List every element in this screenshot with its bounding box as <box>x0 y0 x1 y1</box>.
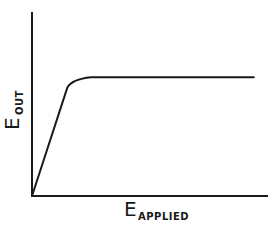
data-curve <box>32 77 254 196</box>
y-label-main: E <box>0 117 24 130</box>
x-axis-label: E APPLIED <box>124 197 189 222</box>
y-label-sub: OUT <box>14 90 25 115</box>
y-axis-label: E OUT <box>0 90 25 130</box>
x-label-main: E <box>124 197 137 221</box>
chart: E OUT E APPLIED <box>0 0 277 234</box>
x-label-sub: APPLIED <box>138 211 189 222</box>
